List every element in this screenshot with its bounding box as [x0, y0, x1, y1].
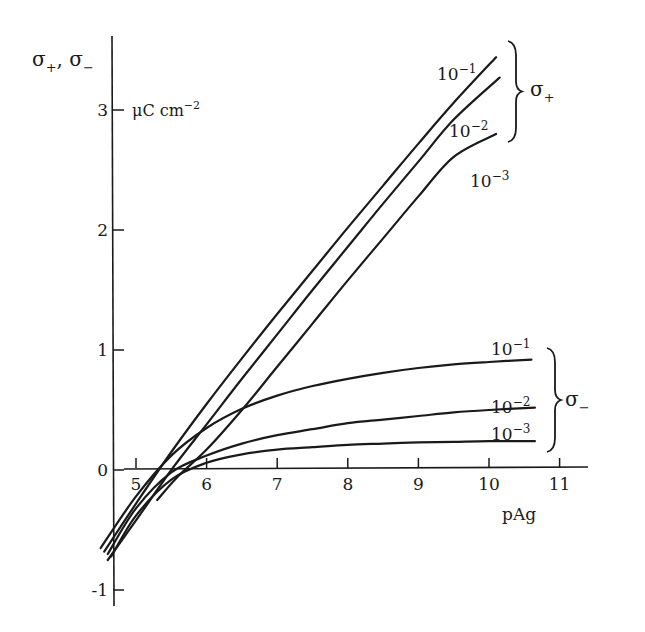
curve-label: 10−1	[437, 62, 476, 84]
curve-sigma-minus-m2	[108, 408, 535, 554]
y-axis-title: σ+, σ−	[32, 47, 94, 75]
x-tick-label: 8	[342, 474, 353, 494]
curve-sigma-minus-m1	[101, 360, 532, 548]
group-label-sigma-plus: σ+	[530, 77, 555, 105]
y-tick-label: -1	[91, 580, 108, 600]
x-tick-label: 6	[201, 474, 212, 494]
brace-sigma-minus	[547, 348, 561, 452]
curve-sigma-minus-m3	[111, 441, 535, 556]
y-axis-line	[112, 36, 114, 606]
curve-label: 10−3	[470, 169, 509, 191]
x-tick-label: 11	[549, 474, 571, 494]
y-axis-unit: μC cm−2	[132, 99, 200, 120]
x-axis-title: pAg	[502, 504, 536, 524]
group-label-sigma-minus: σ−	[565, 387, 590, 415]
x-tick-label: 7	[272, 474, 283, 494]
curve-label: 10−1	[491, 337, 530, 359]
y-tick-label: 1	[97, 340, 108, 360]
curve-labels: 10−110−210−310−110−210−3σ+σ−	[437, 41, 590, 452]
x-tick-label: 10	[478, 474, 500, 494]
y-tick-label: 3	[97, 100, 108, 120]
chart: -10123567891011 σ+, σ− μC cm−2 pAg 10−11…	[0, 0, 645, 632]
curve-label: 10−2	[449, 119, 488, 141]
y-tick-label: 0	[97, 460, 108, 480]
curve-label: 10−2	[491, 395, 530, 417]
brace-sigma-plus	[508, 41, 522, 142]
y-tick-label: 2	[97, 220, 108, 240]
x-tick-label: 9	[413, 474, 424, 494]
